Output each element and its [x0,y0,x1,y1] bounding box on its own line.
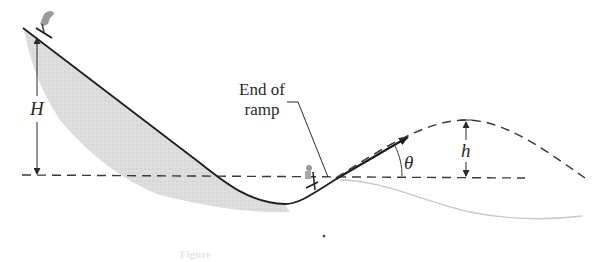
H-label: H [30,98,44,120]
hill-shading [24,30,290,212]
reference-level-line [22,175,525,178]
figure-caption: Figure [180,248,211,260]
end-of-ramp-label: End of ramp [222,80,302,120]
marker-dot [323,235,326,238]
theta-angle-arc [395,146,402,176]
diagram-canvas [0,0,599,262]
landing-slope-curve [340,180,582,219]
end-of-ramp-label-line1: End of [222,80,302,100]
launch-velocity-arrow [336,137,408,179]
theta-label: θ [404,152,413,174]
skier-ramp-icon [305,165,318,190]
end-of-ramp-label-line2: ramp [222,100,302,120]
skier-top-icon [36,11,54,38]
h-label: h [461,140,471,162]
ski-jump-diagram: End of ramp H h θ Figure [0,0,599,262]
